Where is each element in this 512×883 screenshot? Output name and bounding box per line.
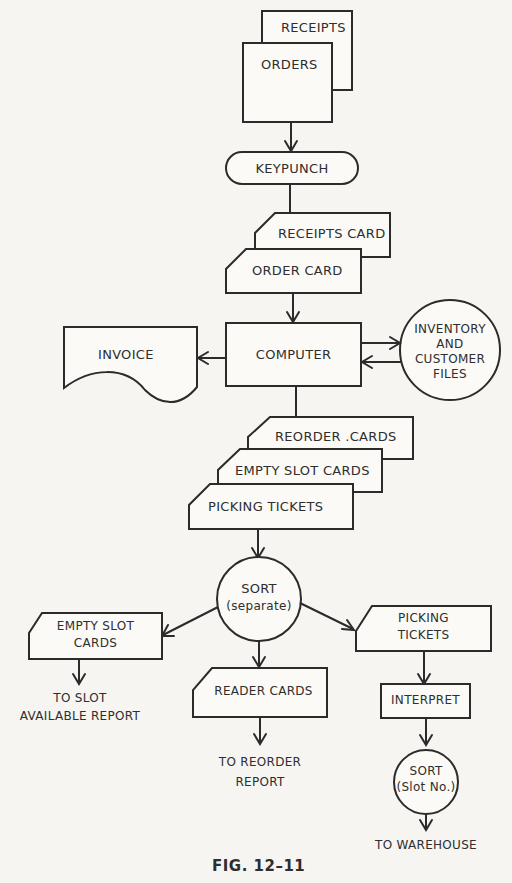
empty-slot-out-label-line1: EMPTY SLOT (29, 619, 162, 634)
empty-slot-cards-label: EMPTY SLOT CARDS (235, 462, 370, 479)
orders-label: ORDERS (261, 56, 318, 73)
files-label-line1: INVENTORY (400, 322, 500, 337)
files-label-line3: CUSTOMER (400, 352, 500, 367)
invoice-label: INVOICE (98, 346, 154, 363)
empty-slot-out-label-line2: CARDS (29, 636, 162, 651)
sort-sub-label: (separate) (217, 599, 301, 614)
picking-out-label-line1: PICKING (356, 611, 491, 626)
to-warehouse-label: TO WAREHOUSE (366, 838, 486, 853)
to-reorder-label-line2: REPORT (205, 775, 315, 790)
keypunch-label: KEYPUNCH (226, 160, 358, 177)
to-slot-label-line1: TO SLOT (10, 691, 150, 706)
sort2-sub-label: (Slot No.) (394, 780, 458, 795)
to-reorder-label-line1: TO REORDER (205, 755, 315, 770)
to-slot-label-line2: AVAILABLE REPORT (10, 709, 150, 724)
files-label-line4: FILES (400, 367, 500, 382)
reader-cards-label: READER CARDS (200, 684, 327, 699)
sort2-title-label: SORT (394, 764, 458, 779)
receipts-card-label: RECEIPTS CARD (278, 225, 385, 242)
order-card-label: ORDER CARD (252, 262, 343, 279)
flowchart-canvas: RECEIPTS ORDERS KEYPUNCH RECEIPTS CARD O… (0, 0, 512, 883)
invoice-document-shape (64, 327, 197, 402)
flowchart-graphics (0, 0, 512, 883)
reorder-cards-label: REORDER .CARDS (275, 428, 397, 445)
sort-title-label: SORT (217, 580, 301, 597)
interpret-label: INTERPRET (381, 693, 470, 708)
computer-label: COMPUTER (226, 346, 361, 363)
receipts-label: RECEIPTS (281, 19, 346, 36)
files-label-line2: AND (400, 337, 500, 352)
picking-out-label-line2: TICKETS (356, 628, 491, 643)
orders-document-shape (243, 43, 332, 122)
figure-caption: FIG. 12–11 (212, 858, 305, 875)
picking-tickets-label: PICKING TICKETS (208, 498, 323, 515)
